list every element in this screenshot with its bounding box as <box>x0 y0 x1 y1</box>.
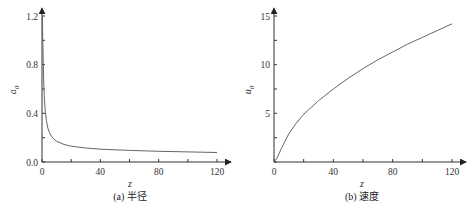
figure: 0.00.40.81.2 04080120 a0 z (a) 半径 51015 … <box>0 0 472 209</box>
y-tick-label: 10 <box>261 60 271 70</box>
x-tick-label: 80 <box>388 167 398 177</box>
x-tick-label: 0 <box>40 167 45 177</box>
x-tick-label: 120 <box>210 167 225 177</box>
chart-panel-velocity: 51015 04080120 u0 z (b) 速度 <box>242 8 466 203</box>
y-axis-label: u0 <box>242 85 256 94</box>
y-tick-label: 15 <box>261 12 271 22</box>
panel-caption: (a) 半径 <box>113 190 147 203</box>
y-tick-label: 0.0 <box>26 158 38 168</box>
y-tick-label: 5 <box>265 109 270 119</box>
y-tick-label: 0.4 <box>26 109 38 119</box>
x-tick-label: 0 <box>272 167 277 177</box>
chart-panel-radius: 0.00.40.81.2 04080120 a0 z (a) 半径 <box>7 8 231 203</box>
data-line <box>42 16 217 153</box>
x-tick-label: 120 <box>445 167 460 177</box>
x-tick-label: 80 <box>154 167 164 177</box>
x-tick-label: 40 <box>96 167 106 177</box>
data-line <box>274 24 452 162</box>
y-axis-label: a0 <box>7 85 21 94</box>
x-tick-label: 40 <box>329 167 339 177</box>
x-axis-label: z <box>359 178 364 189</box>
y-tick-label: 1.2 <box>26 12 38 22</box>
x-axis-label: z <box>127 178 132 189</box>
y-tick-label: 0.8 <box>26 60 38 70</box>
panel-caption: (b) 速度 <box>345 190 379 203</box>
y-ticks: 51015 <box>261 12 278 163</box>
